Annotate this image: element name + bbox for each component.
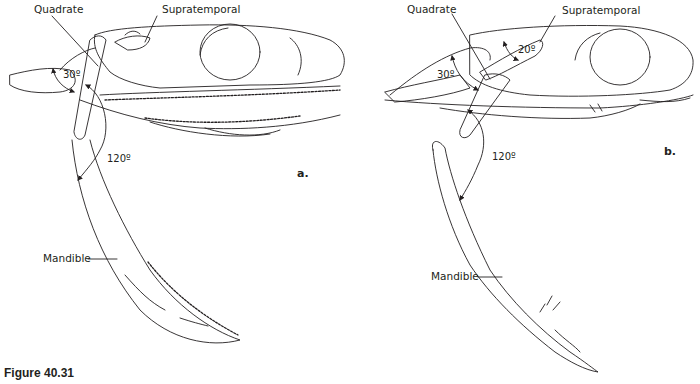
mandible-b <box>432 141 598 372</box>
figure-caption: Figure 40.31 <box>4 366 74 380</box>
angle-label-120-b: 120º <box>492 151 516 162</box>
mandible-label-a: Mandible <box>43 252 91 264</box>
quadrate-leader-b <box>452 14 490 79</box>
supratemporal-label-b: Supratemporal <box>562 4 640 16</box>
angle-label-120-a: 120º <box>107 153 131 164</box>
rotation-arrow-30-b <box>452 56 478 90</box>
quadrate-label-b: Quadrate <box>407 3 456 15</box>
mandible-label-b: Mandible <box>431 270 479 282</box>
angle-label-20-b: 20º <box>518 44 535 55</box>
snake-skull-diagram <box>0 0 700 384</box>
supratemporal-leader-a <box>145 16 157 42</box>
mandible-a <box>72 140 240 343</box>
quadrate-leader-a <box>52 16 98 66</box>
skull-b <box>385 25 693 137</box>
rotation-arrow-120-b <box>460 110 484 200</box>
rotation-arrow-120-a <box>78 85 106 180</box>
angle-label-30-b: 30º <box>437 69 454 80</box>
supratemporal-leader-b <box>540 16 555 42</box>
supratemporal-label-a: Supratemporal <box>162 3 240 15</box>
panel-label-b: b. <box>664 145 676 158</box>
quadrate-label-a: Quadrate <box>34 3 83 15</box>
panel-label-a: a. <box>297 167 309 180</box>
skull-a <box>10 24 344 139</box>
angle-label-30-a: 30º <box>63 69 80 80</box>
